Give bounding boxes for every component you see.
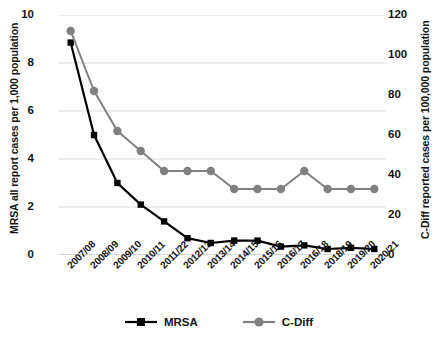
legend-square-marker-icon <box>124 316 158 328</box>
data-point <box>323 185 331 193</box>
series-mrsa <box>67 39 377 252</box>
plot-area <box>59 15 386 255</box>
data-point <box>370 185 378 193</box>
data-point <box>184 235 190 241</box>
right-axis-title: C-Diff reported cases per 100,000 popula… <box>419 29 431 239</box>
left-axis-tick: 8 <box>8 57 34 69</box>
left-axis-tick: 10 <box>8 9 34 21</box>
data-point <box>114 180 120 186</box>
left-axis-tick: 2 <box>8 201 34 213</box>
data-series-layer <box>66 27 378 252</box>
data-point <box>137 147 145 155</box>
chart-canvas <box>59 15 386 255</box>
left-axis-tick: 0 <box>8 249 34 261</box>
data-point <box>183 167 191 175</box>
chart-legend: MRSAC-Diff <box>0 316 437 328</box>
legend-item-mrsa[interactable]: MRSA <box>124 316 198 328</box>
data-point <box>138 201 144 207</box>
data-point <box>90 87 98 95</box>
right-axis-tick: 60 <box>388 129 416 141</box>
right-axis-tick: 120 <box>388 9 416 21</box>
series-line <box>71 43 375 249</box>
data-point <box>67 39 73 45</box>
legend-circle-marker-icon <box>242 316 276 328</box>
left-axis-tick-labels: 0246810 <box>8 0 34 341</box>
right-axis-tick: 20 <box>388 209 416 221</box>
legend-label: C-Diff <box>282 316 313 328</box>
data-point <box>253 185 261 193</box>
data-point <box>161 218 167 224</box>
legend-label: MRSA <box>164 316 198 328</box>
data-point <box>113 127 121 135</box>
data-point <box>160 167 168 175</box>
data-point <box>66 27 74 35</box>
data-point <box>207 167 215 175</box>
data-point <box>91 132 97 138</box>
series-c-diff <box>66 27 378 193</box>
dual-axis-line-chart: MRSA all report cases per 1,000 populati… <box>0 0 437 341</box>
legend-item-c-diff[interactable]: C-Diff <box>242 316 313 328</box>
data-point <box>300 167 308 175</box>
data-point <box>230 185 238 193</box>
right-axis-tick-labels: 020406080100120 <box>388 0 416 341</box>
right-axis-tick: 40 <box>388 169 416 181</box>
series-line <box>71 31 375 189</box>
right-axis-tick: 100 <box>388 49 416 61</box>
data-point <box>347 185 355 193</box>
data-point <box>277 185 285 193</box>
gridlines <box>59 15 386 255</box>
right-axis-tick: 80 <box>388 89 416 101</box>
left-axis-tick: 4 <box>8 153 34 165</box>
left-axis-tick: 6 <box>8 105 34 117</box>
